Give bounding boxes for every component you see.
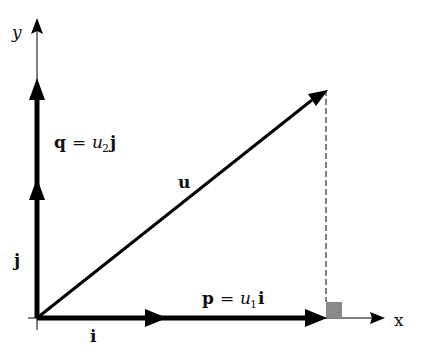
vector-u: [37, 90, 328, 318]
svg-text:p: p: [202, 288, 214, 308]
right-angle-marker: [326, 302, 342, 318]
vector-j-label: j: [12, 250, 20, 270]
vector-q-arrow-icon: [29, 78, 45, 100]
vector-j-arrow-icon: [29, 178, 45, 200]
vector-u-label: u: [178, 172, 190, 192]
vector-q: [29, 78, 45, 318]
y-axis-label: y: [11, 22, 22, 42]
vector-p-arrow-icon: [305, 309, 327, 327]
vector-q-equation: q = u 2 j: [54, 132, 116, 155]
svg-text:j: j: [108, 132, 116, 152]
vector-p: [37, 309, 327, 327]
vector-diagram: y x u j i q = u 2 j p = u 1 i: [0, 0, 426, 355]
svg-text:1: 1: [250, 298, 257, 311]
svg-text:2: 2: [102, 142, 109, 155]
svg-text:=: =: [72, 132, 86, 152]
x-axis-label: x: [394, 310, 404, 330]
svg-text:i: i: [258, 288, 265, 308]
vector-p-equation: p = u 1 i: [202, 288, 265, 311]
vector-i-label: i: [90, 326, 97, 346]
svg-text:q: q: [54, 132, 66, 152]
vector-u-arrow-icon: [308, 90, 328, 106]
vector-i-arrow-icon: [145, 309, 167, 327]
x-axis-arrow-icon: [370, 312, 385, 324]
svg-text:=: =: [220, 288, 234, 308]
